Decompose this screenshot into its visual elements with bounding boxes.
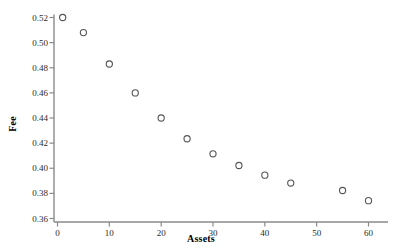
data-point xyxy=(288,180,294,186)
y-axis-title: Fee xyxy=(7,116,18,132)
data-point xyxy=(339,187,345,193)
x-tick-label: 60 xyxy=(364,229,373,238)
chart-canvas xyxy=(0,0,402,249)
y-tick-label: 0.40 xyxy=(18,164,48,173)
y-tick-label: 0.46 xyxy=(18,88,48,97)
data-point xyxy=(365,198,371,204)
data-point xyxy=(262,172,268,178)
y-tick-label: 0.44 xyxy=(18,114,48,123)
y-tick-label: 0.48 xyxy=(18,63,48,72)
y-tick-label: 0.36 xyxy=(18,214,48,223)
x-axis-title: Assets xyxy=(187,233,215,244)
data-point xyxy=(236,162,242,168)
y-tick-label: 0.52 xyxy=(18,13,48,22)
x-tick-label: 40 xyxy=(260,229,269,238)
scatter-chart: 0.360.380.400.420.440.460.480.500.520102… xyxy=(0,0,402,249)
data-point xyxy=(210,151,216,157)
x-tick-label: 10 xyxy=(105,229,114,238)
x-tick-label: 50 xyxy=(312,229,321,238)
x-tick-label: 20 xyxy=(157,229,166,238)
x-tick-label: 0 xyxy=(55,229,60,238)
data-point xyxy=(106,61,112,67)
data-point xyxy=(60,14,66,20)
y-tick-label: 0.38 xyxy=(18,189,48,198)
data-point xyxy=(132,90,138,96)
data-point xyxy=(184,136,190,142)
data-point xyxy=(80,29,86,35)
data-point xyxy=(158,115,164,121)
plot-area xyxy=(0,0,402,249)
y-tick-label: 0.42 xyxy=(18,139,48,148)
y-tick-label: 0.50 xyxy=(18,38,48,47)
